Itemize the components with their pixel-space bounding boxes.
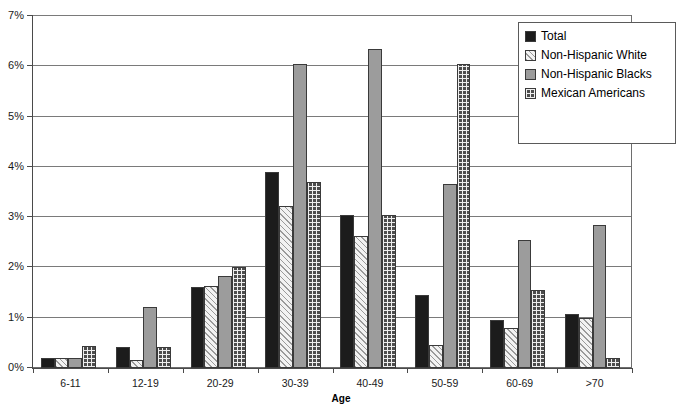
bar <box>606 358 620 368</box>
legend-swatch-icon <box>525 31 536 42</box>
bar-fill <box>117 348 129 367</box>
bar-fill <box>69 359 81 367</box>
bar-fill <box>580 319 592 367</box>
x-tick-label: 50-59 <box>407 377 482 389</box>
y-tick-mark <box>27 216 32 217</box>
legend-item: Total <box>525 29 671 43</box>
bar <box>518 240 532 368</box>
y-tick-label: 0% <box>0 362 24 373</box>
y-tick-label: 7% <box>0 10 24 21</box>
y-tick-mark <box>27 367 32 368</box>
bar <box>116 347 130 368</box>
bar <box>82 346 96 368</box>
bar <box>157 347 171 368</box>
x-tick-label: 6-11 <box>33 377 108 389</box>
x-tick-label: 40-49 <box>333 377 408 389</box>
bar <box>232 267 246 368</box>
bar-fill <box>158 348 170 367</box>
chart-legend: TotalNon-Hispanic WhiteNon-Hispanic Blac… <box>518 22 676 144</box>
bar-fill <box>205 287 217 367</box>
x-tick-mark <box>33 368 34 373</box>
x-tick-mark <box>557 368 558 373</box>
bar-fill <box>341 216 353 367</box>
bar <box>565 314 579 368</box>
y-tick-mark <box>27 116 32 117</box>
bar-fill <box>355 237 367 367</box>
bar-fill <box>430 346 442 367</box>
y-tick-label: 4% <box>0 161 24 172</box>
bar-chart: 0%1%2%3%4%5%6%7% 6-1112-1920-2930-3940-4… <box>0 0 682 408</box>
bar-fill <box>607 359 619 367</box>
bar <box>382 215 396 368</box>
bar <box>531 290 545 368</box>
y-tick-mark <box>27 317 32 318</box>
bar-fill <box>192 288 204 367</box>
legend-swatch-icon <box>525 69 536 80</box>
bar <box>457 64 471 368</box>
y-tick-mark <box>27 266 32 267</box>
bar <box>429 345 443 368</box>
y-tick-label: 2% <box>0 261 24 272</box>
y-tick-mark <box>27 166 32 167</box>
bar-fill <box>566 315 578 367</box>
y-tick-label: 5% <box>0 111 24 122</box>
bar-fill <box>594 226 606 367</box>
bar <box>41 358 55 368</box>
bar-fill <box>294 65 306 367</box>
bar-fill <box>144 308 156 367</box>
bar-fill <box>383 216 395 367</box>
legend-label: Non-Hispanic White <box>541 48 647 62</box>
y-tick-label: 3% <box>0 211 24 222</box>
bar <box>368 49 382 368</box>
bar-fill <box>131 361 143 367</box>
bar-fill <box>308 183 320 367</box>
bar-fill <box>266 173 278 367</box>
bar <box>354 236 368 368</box>
x-tick-label: 60-69 <box>482 377 557 389</box>
x-tick-mark <box>407 368 408 373</box>
legend-swatch-icon <box>525 88 536 99</box>
x-tick-mark <box>183 368 184 373</box>
legend-swatch-icon <box>525 50 536 61</box>
bar-fill <box>532 291 544 367</box>
x-tick-mark <box>108 368 109 373</box>
bar-fill <box>491 321 503 367</box>
bar <box>593 225 607 368</box>
x-tick-label: 30-39 <box>258 377 333 389</box>
bar <box>218 276 232 368</box>
bar <box>130 360 144 368</box>
y-tick-mark <box>27 15 32 16</box>
bar-fill <box>83 347 95 367</box>
x-tick-mark <box>258 368 259 373</box>
bar-fill <box>42 359 54 367</box>
bar-fill <box>519 241 531 367</box>
legend-label: Total <box>541 29 566 43</box>
bar <box>504 328 518 368</box>
bar-fill <box>219 277 231 367</box>
bar <box>443 184 457 368</box>
legend-label: Non-Hispanic Blacks <box>541 67 652 81</box>
bar-fill <box>444 185 456 367</box>
bar <box>204 286 218 368</box>
bar-fill <box>416 296 428 367</box>
x-tick-mark <box>482 368 483 373</box>
legend-item: Non-Hispanic Blacks <box>525 67 671 81</box>
x-tick-mark <box>333 368 334 373</box>
y-tick-label: 1% <box>0 312 24 323</box>
x-tick-label: 20-29 <box>183 377 258 389</box>
bar-fill <box>369 50 381 367</box>
bar-fill <box>458 65 470 367</box>
bar <box>293 64 307 368</box>
bar <box>579 318 593 368</box>
bar-fill <box>56 359 68 367</box>
bar <box>415 295 429 368</box>
bar <box>68 358 82 368</box>
x-tick-mark <box>632 368 633 373</box>
legend-item: Non-Hispanic White <box>525 48 671 62</box>
bar <box>307 182 321 368</box>
legend-item: Mexican Americans <box>525 86 671 100</box>
x-tick-label: >70 <box>557 377 632 389</box>
bar <box>490 320 504 368</box>
bar <box>191 287 205 368</box>
legend-label: Mexican Americans <box>541 86 645 100</box>
